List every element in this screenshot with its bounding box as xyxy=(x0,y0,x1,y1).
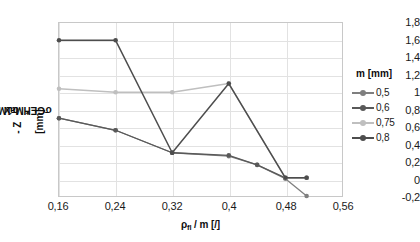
legend-swatch-icon xyxy=(352,118,374,128)
x-tick-label: 0,16 xyxy=(36,201,80,212)
x-tick-label: 0,56 xyxy=(321,201,365,212)
legend-swatch-icon xyxy=(352,103,374,113)
data-point-marker xyxy=(113,90,118,95)
plot-area xyxy=(58,22,343,197)
legend-item[interactable]: 0,75 xyxy=(352,115,418,130)
legend-swatch-icon xyxy=(352,88,374,98)
x-axis-title: ρfl / m [/] xyxy=(58,219,343,232)
legend: m [mm] 0,5 0,6 0,75 0,8 xyxy=(352,68,418,145)
legend-swatch-icon xyxy=(352,133,374,143)
x-tick-label: 0,24 xyxy=(93,201,137,212)
y-axis-title-text: Zσ1Max* - ZσGEHMax [mm] xyxy=(0,86,45,133)
series-line xyxy=(59,84,307,178)
x-axis-title-text: ρfl / m [/] xyxy=(181,219,220,230)
legend-title: m [mm] xyxy=(356,68,418,79)
y-tick-label: -0,2 xyxy=(366,192,420,203)
legend-item-label: 0,6 xyxy=(376,102,389,113)
data-point-marker xyxy=(170,90,175,95)
data-point-marker xyxy=(57,116,62,121)
data-point-marker xyxy=(113,128,118,133)
legend-item-label: 0,5 xyxy=(376,87,389,98)
data-point-marker xyxy=(227,81,232,86)
legend-item[interactable]: 0,8 xyxy=(352,130,418,145)
series-line xyxy=(59,40,307,178)
data-point-marker xyxy=(255,163,260,168)
y-tick-label: 1,4 xyxy=(366,52,420,63)
data-point-marker xyxy=(283,176,288,181)
data-point-marker xyxy=(170,150,175,155)
y-tick-label: 0 xyxy=(366,175,420,186)
y-tick-label: 0,2 xyxy=(366,157,420,168)
series-line xyxy=(59,118,307,178)
legend-item-label: 0,75 xyxy=(376,117,395,128)
x-tick-label: 0,48 xyxy=(264,201,308,212)
y-tick-label: 1,6 xyxy=(366,35,420,46)
x-tick-label: 0,4 xyxy=(207,201,251,212)
legend-item-label: 0,8 xyxy=(376,132,389,143)
data-point-marker xyxy=(304,176,309,181)
data-point-marker xyxy=(304,194,309,199)
data-point-marker xyxy=(227,153,232,158)
data-series-layer xyxy=(59,23,342,196)
legend-item[interactable]: 0,6 xyxy=(352,100,418,115)
series-line xyxy=(59,118,307,196)
legend-item[interactable]: 0,5 xyxy=(352,85,418,100)
data-point-marker xyxy=(57,86,62,91)
y-tick-label: 1,8 xyxy=(366,17,420,28)
data-point-marker xyxy=(113,38,118,43)
data-point-marker xyxy=(57,38,62,43)
x-tick-label: 0,32 xyxy=(150,201,194,212)
y-axis-title: Zσ1Max* - ZσGEHMax [mm] xyxy=(2,22,22,197)
chart-root: Zσ1Max* - ZσGEHMax [mm] 1,8 1,6 1,4 1,2 … xyxy=(0,0,420,242)
